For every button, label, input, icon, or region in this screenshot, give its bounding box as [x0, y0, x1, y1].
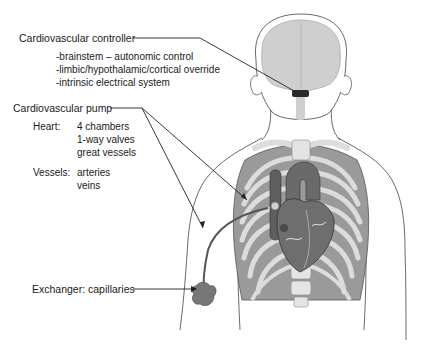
pump-heart-item-valves: 1-way valves	[77, 133, 135, 146]
pump-vessels-item-veins: veins	[77, 179, 100, 192]
pump-vessels-item-arteries: arteries	[77, 166, 110, 179]
controller-item-brainstem: -brainstem – autonomic control	[56, 50, 193, 63]
controller-item-intrinsic: -intrinsic electrical system	[56, 76, 170, 89]
capillary-bed	[192, 282, 216, 305]
controller-title: Cardiovascular controller	[19, 32, 135, 45]
pump-vessels-label: Vessels:	[33, 166, 70, 179]
pump-heart-item-chambers: 4 chambers	[77, 120, 129, 133]
head	[251, 14, 352, 120]
pump-title: Cardiovascular pump	[13, 102, 112, 115]
exchanger-title: Exchanger: capillaries	[32, 283, 135, 296]
controller-item-limbic: -limbic/hypothalamic/cortical override	[56, 63, 220, 76]
pump-heart-label: Heart:	[33, 120, 60, 133]
pump-heart-item-vessels: great vessels	[77, 146, 136, 159]
